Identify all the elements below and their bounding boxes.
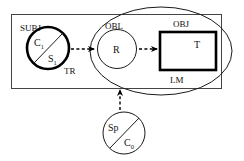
label-c0: C0 [124, 137, 134, 150]
semiotic-diagram: SUBJ OBL OBJ C1 S1 R T Sp C0 TR LM [0, 0, 244, 161]
label-tr: TR [64, 66, 76, 76]
label-t: T [194, 39, 200, 50]
diagram-canvas: SUBJ OBL OBJ C1 S1 R T Sp C0 TR LM [0, 0, 244, 161]
label-obj: OBJ [173, 19, 190, 29]
label-s1: S1 [48, 53, 57, 66]
label-r: R [113, 44, 120, 55]
label-c1: C1 [34, 37, 44, 50]
label-lm: LM [170, 75, 184, 85]
label-obl: OBL [105, 21, 123, 31]
label-subj: SUBJ [20, 23, 42, 33]
label-sp: Sp [108, 122, 119, 133]
term-box-rectangle [160, 32, 216, 70]
